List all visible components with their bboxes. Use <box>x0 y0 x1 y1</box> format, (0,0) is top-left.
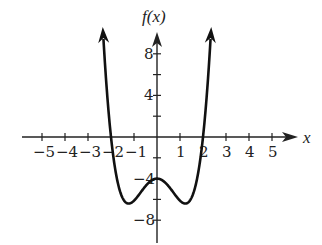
y-tick-label: −4 <box>133 170 155 188</box>
y-axis-label: f(x) <box>142 7 166 26</box>
x-tick-label: −4 <box>56 143 78 161</box>
x-tick-label: 5 <box>268 143 278 161</box>
y-tick-label: 4 <box>144 86 154 104</box>
y-tick-label: −8 <box>133 211 155 229</box>
y-tick-label: 8 <box>144 45 154 63</box>
x-tick-label: −3 <box>79 143 101 161</box>
x-axis-label: x <box>302 128 311 147</box>
x-tick-label: 3 <box>222 143 232 161</box>
axes <box>22 32 298 243</box>
x-tick-label: −1 <box>125 143 147 161</box>
x-tick-label: 1 <box>176 143 186 161</box>
x-tick-label: 4 <box>245 143 255 161</box>
x-tick-label: −5 <box>33 143 55 161</box>
function-graph: −5−4−3−2−11234584−4−8 x f(x) <box>0 0 322 245</box>
